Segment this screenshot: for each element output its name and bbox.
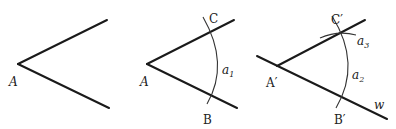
point-label-c-prime: C′ (331, 13, 343, 27)
vertex-label-a-prime: A′ (265, 76, 278, 90)
figure-original-angle: A (8, 20, 109, 108)
point-label-b-prime: B′ (334, 113, 346, 127)
lower-ray (18, 64, 109, 108)
point-label-c: C (209, 12, 218, 26)
arc-label-a2: a2 (352, 68, 364, 84)
arc-label-a3: a3 (357, 34, 369, 50)
angle-copy-construction-diagram: A A C B a1 A′ C′ B′ a3 a2 w (0, 0, 396, 129)
ray-label-w: w (374, 98, 385, 112)
arc-label-a1: a1 (222, 63, 234, 79)
figure-angle-with-arc: A C B a1 (139, 12, 237, 127)
figure-copied-angle: A′ C′ B′ a3 a2 w (257, 13, 387, 127)
upper-ray (277, 20, 365, 66)
vertex-label-a: A (139, 75, 149, 89)
upper-ray (18, 20, 107, 64)
upper-ray (147, 20, 234, 64)
vertex-label-a: A (8, 75, 18, 89)
point-label-b: B (203, 113, 212, 127)
